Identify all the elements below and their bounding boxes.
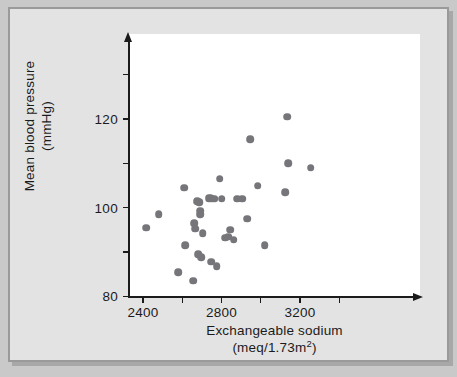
scatter-point (284, 160, 292, 168)
scatter-point (261, 242, 269, 250)
y-axis-tick (123, 251, 129, 252)
scatter-point (195, 198, 203, 206)
scatter-point (254, 182, 262, 190)
y-axis-tick (123, 163, 129, 164)
scatter-point (191, 225, 199, 233)
scatter-point (181, 242, 189, 250)
y-axis-tick-label: 120 (95, 112, 118, 127)
x-axis-tick (299, 297, 300, 303)
scatter-point (155, 211, 163, 219)
x-axis-arrow-icon (413, 293, 423, 301)
x-axis-tick-label: 2800 (206, 305, 237, 320)
scatter-point (227, 226, 235, 234)
x-axis-units-suffix: ) (312, 340, 317, 355)
x-axis-units-prefix: (meq/1.73m (232, 340, 306, 355)
scatter-point (216, 175, 224, 183)
x-axis-title-line1: Exchangeable sodium (129, 322, 420, 339)
plot-area (129, 34, 420, 297)
y-axis-tick-label: 100 (95, 200, 118, 215)
scatter-point (197, 210, 205, 218)
y-axis-tick (123, 74, 129, 75)
y-axis-tick (123, 207, 129, 208)
x-axis-tick-label: 3200 (284, 305, 315, 320)
scatter-point (243, 215, 251, 223)
x-axis-tick (339, 297, 340, 303)
scatter-point (142, 224, 150, 232)
x-axis-tick-label: 2400 (127, 305, 158, 320)
scatter-point (283, 113, 291, 121)
x-axis-tick (182, 297, 183, 303)
y-axis-tick-label: 80 (102, 289, 118, 304)
y-axis-title-line1: Mean blood pressure (21, 36, 38, 216)
scatter-point (246, 135, 254, 143)
scatter-point (180, 184, 188, 192)
figure-panel: 240028003200 80100120 Exchangeable sodiu… (10, 9, 447, 360)
y-axis-tick (123, 296, 129, 297)
scatter-point (189, 277, 197, 285)
x-axis-line (128, 296, 415, 298)
x-axis-tick (142, 297, 143, 303)
scatter-point (175, 268, 183, 276)
y-axis-title-line2: (mmHg) (38, 36, 55, 216)
x-axis-tick (260, 297, 261, 303)
x-axis-tick (221, 297, 222, 303)
y-axis-title: Mean blood pressure (mmHg) (21, 36, 55, 216)
y-axis-arrow-icon (124, 32, 132, 42)
scatter-point (307, 164, 315, 172)
scatter-point (218, 195, 226, 203)
scatter-point (213, 262, 221, 270)
scatter-point (230, 236, 238, 244)
scatter-point (198, 254, 206, 262)
x-axis-title: Exchangeable sodium (meq/1.73m2) (129, 322, 420, 356)
x-axis-title-line2: (meq/1.73m2) (129, 339, 420, 356)
scatter-point (238, 195, 246, 203)
y-axis-line (128, 41, 130, 298)
figure-container: 240028003200 80100120 Exchangeable sodiu… (0, 0, 457, 377)
y-axis-tick (123, 118, 129, 119)
scatter-point (281, 188, 289, 196)
scatter-point (199, 230, 207, 238)
